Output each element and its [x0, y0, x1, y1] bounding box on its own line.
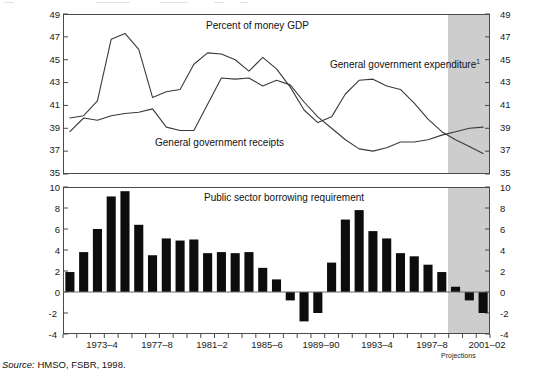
lower-panel-title: Public sector borrowing requirement [204, 192, 364, 203]
lower-panel-bars [0, 180, 543, 360]
xtick-label: 1993–4 [347, 340, 407, 350]
xtick-label: 1985–6 [237, 340, 297, 350]
xtick-label: 1977–8 [127, 340, 187, 350]
xtick-label: 1981–2 [182, 340, 242, 350]
xtick-label: 1973–4 [72, 340, 132, 350]
projections-label: Projections [441, 352, 476, 359]
source-text: HMSO, FSBR, 1998. [35, 359, 126, 370]
xtick-label: 1989–90 [291, 340, 351, 350]
figure-public-finances: 49 47 45 43 41 39 37 35 49 47 45 43 41 3… [0, 0, 543, 379]
expenditure-footnote-marker: 1 [476, 58, 480, 65]
receipts-series-label: General government receipts [155, 137, 284, 148]
xtick-label: 1997–8 [402, 340, 462, 350]
expenditure-label-text: General government expenditure [330, 59, 476, 70]
xtick-label: 2001–02 [457, 340, 517, 350]
source-note: Source: HMSO, FSBR, 1998. [2, 359, 126, 370]
expenditure-series-label: General government expenditure1 [330, 58, 480, 70]
upper-panel-title: Percent of money GDP [206, 20, 309, 31]
source-prefix: Source: [2, 359, 35, 370]
